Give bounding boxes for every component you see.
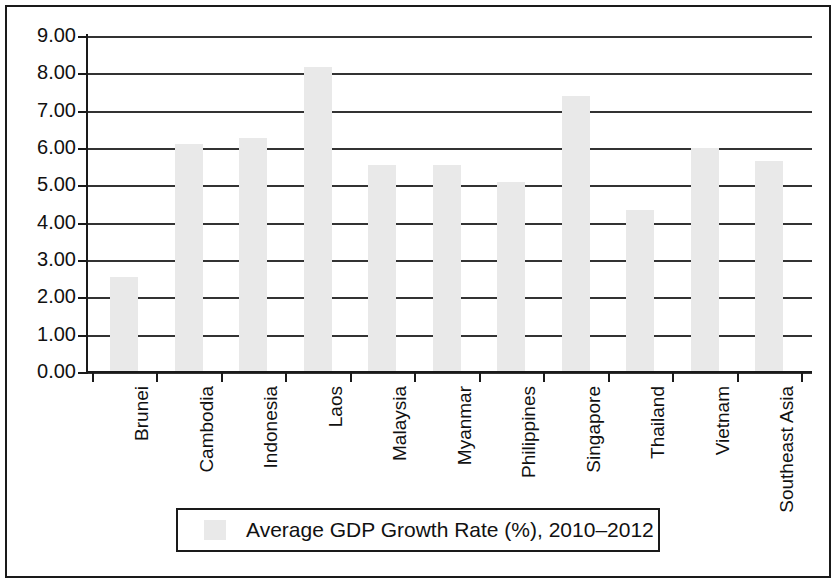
x-axis-tick bbox=[672, 372, 674, 382]
y-axis-tick-label: 3.00 bbox=[6, 249, 76, 269]
x-axis-category-label: Philippines bbox=[519, 386, 538, 478]
bar bbox=[626, 210, 654, 372]
x-axis-category-label: Malaysia bbox=[390, 386, 409, 461]
bar bbox=[497, 182, 525, 372]
y-axis-tick-label: 5.00 bbox=[6, 174, 76, 194]
x-axis-tick bbox=[479, 372, 481, 382]
gridline bbox=[88, 73, 812, 75]
legend-swatch-icon bbox=[204, 520, 226, 540]
x-axis-tick bbox=[350, 372, 352, 382]
x-axis-category-label: Cambodia bbox=[197, 386, 216, 473]
x-axis-tick bbox=[221, 372, 223, 382]
bar bbox=[239, 138, 267, 372]
x-axis-tick bbox=[608, 372, 610, 382]
y-axis-tick-label: 0.00 bbox=[6, 361, 76, 381]
x-axis-category-label: Laos bbox=[326, 386, 345, 427]
x-axis-category-label: Vietnam bbox=[713, 386, 732, 455]
plot-area bbox=[88, 36, 812, 372]
chart-figure: 9.008.007.006.005.004.003.002.001.000.00… bbox=[0, 0, 839, 585]
y-axis-tick-label: 8.00 bbox=[6, 62, 76, 82]
x-axis-line bbox=[86, 371, 812, 373]
x-axis-category-label: Indonesia bbox=[261, 386, 280, 468]
y-axis-tick-label: 9.00 bbox=[6, 25, 76, 45]
x-axis-tick bbox=[92, 372, 94, 382]
gridline bbox=[88, 36, 812, 38]
bar bbox=[110, 277, 138, 372]
x-axis-tick bbox=[737, 372, 739, 382]
bar bbox=[433, 165, 461, 372]
x-axis-category-label: Singapore bbox=[584, 386, 603, 473]
legend-label: Average GDP Growth Rate (%), 2010–2012 bbox=[246, 518, 654, 542]
bar bbox=[755, 161, 783, 372]
x-axis-category-label: Myanmar bbox=[455, 386, 474, 465]
bar bbox=[304, 67, 332, 372]
chart-legend: Average GDP Growth Rate (%), 2010–2012 bbox=[176, 508, 660, 552]
bar bbox=[368, 165, 396, 372]
y-axis-tick-label: 1.00 bbox=[6, 324, 76, 344]
y-axis-tick-label: 2.00 bbox=[6, 286, 76, 306]
x-axis-tick bbox=[414, 372, 416, 382]
x-axis-category-label: Southeast Asia bbox=[777, 386, 796, 513]
y-axis-tick-label: 6.00 bbox=[6, 137, 76, 157]
bar bbox=[175, 144, 203, 372]
x-axis-tick bbox=[156, 372, 158, 382]
bar bbox=[691, 148, 719, 372]
x-axis-category-label: Brunei bbox=[132, 386, 151, 441]
x-axis-category-label: Thailand bbox=[648, 386, 667, 459]
x-axis-tick bbox=[801, 372, 803, 382]
gridline bbox=[88, 111, 812, 113]
y-axis-labels: 9.008.007.006.005.004.003.002.001.000.00 bbox=[0, 0, 76, 585]
y-axis-tick-label: 7.00 bbox=[6, 100, 76, 120]
y-axis-tick-label: 4.00 bbox=[6, 212, 76, 232]
x-axis-tick bbox=[285, 372, 287, 382]
bar bbox=[562, 96, 590, 372]
x-axis-tick bbox=[543, 372, 545, 382]
